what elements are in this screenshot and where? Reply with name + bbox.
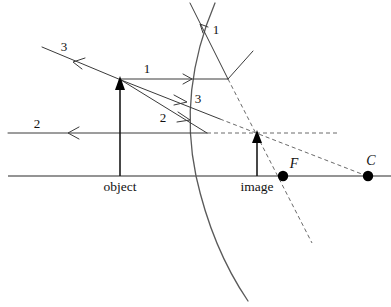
ray-2-incident-label: 2 — [160, 110, 167, 125]
ray-3-reflected-arrowhead — [73, 58, 85, 69]
object-label: object — [104, 179, 137, 194]
ray-2-reflected-label: 2 — [34, 116, 41, 131]
ray-1-virtual-extension — [228, 79, 312, 243]
ray-1-incident-label: 1 — [144, 61, 151, 76]
focal-point-dot — [278, 171, 288, 181]
ray-3-reflected-label: 3 — [61, 39, 68, 54]
image-label: image — [241, 179, 274, 194]
ray-1-reflected-label: 1 — [213, 22, 220, 37]
concave-mirror-arc — [190, 3, 248, 301]
ray-diagram-canvas: 1 1 2 2 3 3 object image F C — [0, 0, 391, 307]
ray-3-incident-arrowhead — [174, 95, 187, 105]
ray-3-incident-label: 3 — [195, 91, 202, 106]
center-of-curvature-label: C — [366, 153, 376, 168]
ray-3-incident — [121, 80, 220, 119]
ray-3-reflected — [42, 47, 121, 80]
ray-2-incident-arrowhead — [177, 112, 190, 122]
center-of-curvature-dot — [363, 171, 373, 181]
ray-diagram-figure: 1 1 2 2 3 3 object image F C — [0, 0, 391, 307]
focal-point-label: F — [289, 156, 299, 171]
mirror-normal-segment — [228, 51, 253, 79]
ray-2-incident — [121, 80, 207, 133]
